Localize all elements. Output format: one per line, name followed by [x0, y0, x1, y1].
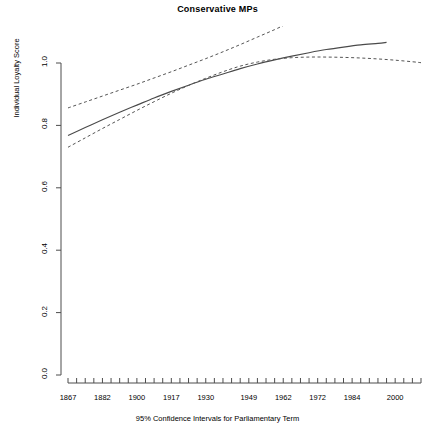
x-tick-label: 1962	[266, 393, 300, 402]
y-tick-label: 0.0	[40, 363, 49, 385]
x-tick-label: 1972	[301, 393, 335, 402]
x-tick-label: 1917	[154, 393, 188, 402]
x-tick-label: 2000	[378, 393, 412, 402]
x-tick-label: 1930	[189, 393, 223, 402]
y-tick-label: 0.2	[40, 300, 49, 322]
data-curves-layer	[0, 0, 435, 444]
fitted-line-curve	[68, 42, 387, 135]
chart-canvas: Conservative MPs Individual Loyalty Scor…	[0, 0, 435, 444]
x-tick-label: 1882	[85, 393, 119, 402]
confidence-bound-curve	[68, 57, 421, 147]
series-group	[68, 13, 421, 147]
x-tick-label: 1867	[51, 393, 85, 402]
y-tick-label: 0.6	[40, 175, 49, 197]
x-tick-label: 1984	[335, 393, 369, 402]
x-tick-label: 1900	[120, 393, 154, 402]
x-tick-label: 1949	[232, 393, 266, 402]
y-tick-label: 0.8	[40, 113, 49, 135]
y-tick-label: 1.0	[40, 51, 49, 73]
y-tick-label: 0.4	[40, 238, 49, 260]
